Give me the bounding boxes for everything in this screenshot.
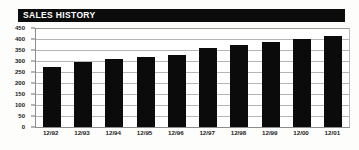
x-axis-tick-label: 12/01: [325, 130, 340, 136]
y-axis-tick-label: 300: [15, 58, 25, 64]
bar: [74, 62, 92, 127]
bar: [105, 59, 123, 127]
x-axis-labels: 12/9212/9312/9412/9512/9612/9712/9812/99…: [35, 130, 348, 142]
y-axis-tick-label: 400: [15, 36, 25, 42]
x-axis-tick-label: 12/92: [43, 130, 58, 136]
bar-series: [36, 28, 349, 127]
y-axis-tick-label: 50: [18, 113, 25, 119]
bar: [43, 67, 61, 128]
x-axis-tick-label: 12/95: [137, 130, 152, 136]
x-axis-tick-label: 12/94: [106, 130, 121, 136]
plot-area: [35, 28, 350, 128]
y-axis-tick-label: 0: [22, 124, 25, 130]
y-axis-tick-label: 350: [15, 47, 25, 53]
x-axis-tick-label: 12/93: [74, 130, 89, 136]
bar: [137, 57, 155, 127]
x-axis-tick-label: 12/97: [199, 130, 214, 136]
y-axis-tick-label: 150: [15, 91, 25, 97]
sales-history-chart-figure: SALES HISTORY 05010015020025030035040045…: [0, 0, 359, 150]
bar: [293, 39, 311, 127]
x-axis-tick-label: 12/96: [168, 130, 183, 136]
bar: [262, 42, 280, 127]
x-axis-tick-label: 12/98: [231, 130, 246, 136]
y-axis-tick-label: 250: [15, 69, 25, 75]
bar: [324, 36, 342, 127]
x-axis-tick-label: 12/00: [293, 130, 308, 136]
y-axis-tick-label: 100: [15, 102, 25, 108]
bar: [168, 55, 186, 127]
y-axis-tick-label: 450: [15, 25, 25, 31]
chart-title-bar: SALES HISTORY: [18, 9, 345, 22]
x-axis-tick-label: 12/99: [262, 130, 277, 136]
chart-title: SALES HISTORY: [18, 11, 96, 20]
y-axis-tick-label: 200: [15, 80, 25, 86]
bar: [199, 48, 217, 127]
bar: [230, 45, 248, 127]
y-axis-labels: 050100150200250300350400450: [0, 28, 31, 127]
